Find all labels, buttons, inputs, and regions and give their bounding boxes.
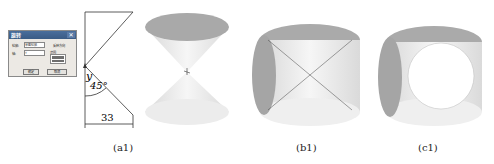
upper-cone-cap <box>145 13 229 41</box>
dimension-label: 33 <box>101 112 114 123</box>
angle-label: 45° <box>90 80 108 91</box>
intersect-figure-b1 <box>240 0 370 164</box>
caption-c1: (c1) <box>418 142 438 153</box>
intersect-figure-c1 <box>364 0 494 164</box>
side-cap <box>252 35 276 115</box>
front-circle <box>408 43 474 109</box>
caption-b1: (b1) <box>296 142 317 153</box>
lower-cone-base <box>145 99 229 125</box>
vertex-marker <box>83 63 87 68</box>
double-cone-figure <box>140 0 250 164</box>
upper-profile-line <box>85 12 133 66</box>
caption-a1: (a1) <box>113 142 133 153</box>
